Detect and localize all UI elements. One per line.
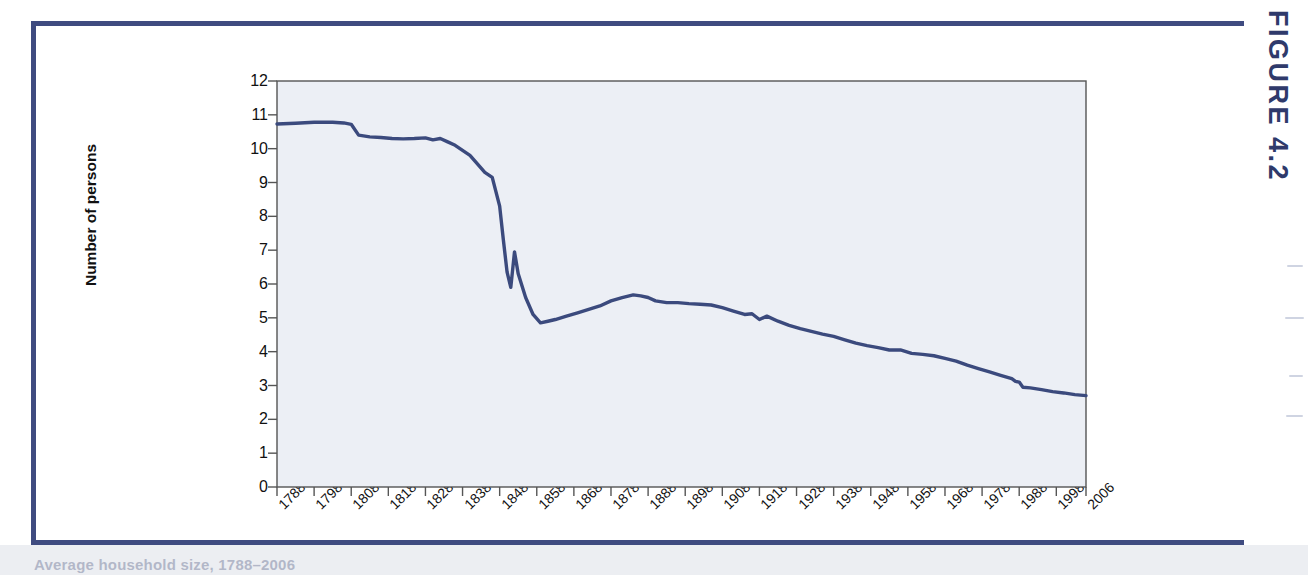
chart-plot-region: Number of persons 0123456789101112 17881…	[36, 26, 1249, 550]
plot-background	[277, 81, 1086, 487]
figure-number-label: FIGURE 4.2	[1253, 10, 1293, 240]
line-chart-svg	[36, 26, 1249, 550]
figure-caption: Average household size, 1788–2006	[34, 556, 674, 575]
figure-frame: Number of persons 0123456789101112 17881…	[31, 21, 1244, 545]
page-edge-marks	[1285, 265, 1307, 425]
